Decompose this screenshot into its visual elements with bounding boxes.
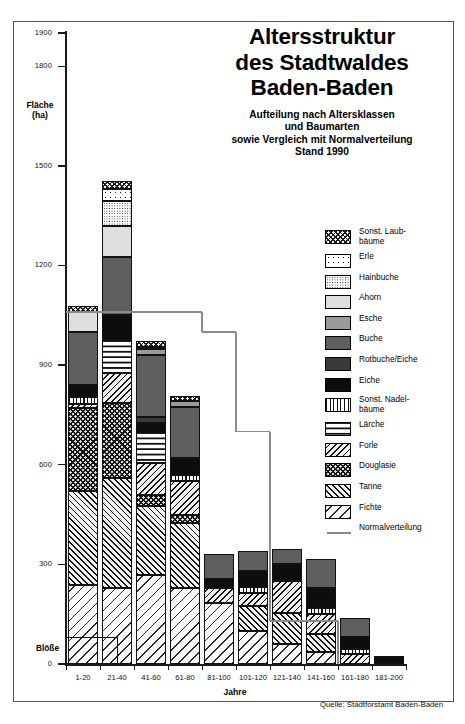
bar-segment-121-140-forle[interactable] <box>272 581 303 613</box>
x-tick-2 <box>134 664 135 670</box>
y-tick-1900 <box>58 32 66 33</box>
bar-segment-141-160-eiche[interactable] <box>306 588 337 608</box>
legend-item-eiche[interactable]: Eiche <box>325 376 457 397</box>
bar-segment-121-140-tanne[interactable] <box>272 613 303 645</box>
legend-item-normalverteilung[interactable]: Normalverteilung <box>325 523 457 544</box>
bar-segment-161-180-buche[interactable] <box>340 618 371 638</box>
bar-21-40[interactable] <box>102 181 133 664</box>
bar-segment-61-80-eiche[interactable] <box>170 458 201 475</box>
bar-segment-21-40-eiche[interactable] <box>102 315 133 340</box>
bar-segment-81-100-eiche[interactable] <box>204 579 235 587</box>
bar-segment-141-160-tanne[interactable] <box>306 634 337 652</box>
y-tick-label-1800: 1800 <box>12 61 52 70</box>
bar-181-200[interactable] <box>374 656 405 664</box>
legend-item-douglasie[interactable]: Douglasie <box>325 461 457 482</box>
bar-segment-1-20-ahorn[interactable] <box>68 312 99 332</box>
bar-1-20[interactable] <box>68 306 99 664</box>
bar-segment-21-40-buche[interactable] <box>102 257 133 315</box>
bar-segment-81-100-forle[interactable] <box>204 588 235 603</box>
bar-segment-61-80-sonstlaub[interactable] <box>170 396 201 401</box>
bar-segment-61-80-tanne[interactable] <box>170 523 201 588</box>
bar-segment-101-120-fichte[interactable] <box>238 631 269 664</box>
bar-segment-21-40-douglasie[interactable] <box>102 403 133 478</box>
bar-segment-41-60-eiche[interactable] <box>136 423 167 431</box>
legend-item-sonstlaub[interactable]: Sonst. Laub-bäume <box>325 228 457 252</box>
legend-item-hainbuche[interactable]: Hainbuche <box>325 273 457 294</box>
bar-segment-1-20-forle[interactable] <box>68 404 99 408</box>
bar-segment-21-40-forle[interactable] <box>102 373 133 403</box>
bar-segment-101-120-tanne[interactable] <box>238 606 269 631</box>
legend-item-buche[interactable]: Buche <box>325 334 457 355</box>
bar-segment-161-180-eiche[interactable] <box>340 637 371 649</box>
bar-segment-41-60-rotbuche[interactable] <box>136 417 167 424</box>
nv-v-4 <box>235 332 237 432</box>
bar-segment-121-140-buche[interactable] <box>272 549 303 564</box>
bar-segment-41-60-forle[interactable] <box>136 463 167 495</box>
bar-segment-1-20-sonstnadel[interactable] <box>68 397 99 404</box>
bar-81-100[interactable] <box>204 554 235 664</box>
legend-item-sonstnadel[interactable]: Sonst. Nadel-bäume <box>325 396 457 420</box>
y-tick-1500 <box>58 165 66 166</box>
legend-item-laerche[interactable]: Lärche <box>325 420 457 441</box>
bar-141-160[interactable] <box>306 559 337 664</box>
legend-item-esche[interactable]: Esche <box>325 314 457 335</box>
bar-segment-21-40-erle[interactable] <box>102 189 133 201</box>
legend-swatch-eiche <box>325 378 351 392</box>
bar-segment-101-120-sonstnadel[interactable] <box>238 587 269 593</box>
bar-segment-41-60-douglasie[interactable] <box>136 495 167 507</box>
bar-segment-81-100-fichte[interactable] <box>204 603 235 664</box>
bar-segment-121-140-eiche[interactable] <box>272 564 303 581</box>
bar-segment-141-160-fichte[interactable] <box>306 652 337 664</box>
bar-segment-161-180-forle[interactable] <box>340 654 371 664</box>
bar-segment-1-20-buche[interactable] <box>68 332 99 385</box>
bar-segment-21-40-tanne[interactable] <box>102 478 133 588</box>
bar-segment-181-200-eiche[interactable] <box>374 656 405 664</box>
legend-swatch-fichte <box>325 505 351 519</box>
bar-segment-21-40-laerche[interactable] <box>102 340 133 373</box>
legend-item-forle[interactable]: Forle <box>325 441 457 462</box>
y-tick-0 <box>58 663 66 664</box>
bar-segment-61-80-forle[interactable] <box>170 481 201 514</box>
bar-101-120[interactable] <box>238 551 269 664</box>
bar-segment-41-60-tanne[interactable] <box>136 506 167 575</box>
bar-segment-41-60-laerche[interactable] <box>136 432 167 464</box>
bar-segment-1-20-tanne[interactable] <box>68 491 99 586</box>
bar-segment-141-160-sonstnadel[interactable] <box>306 608 337 615</box>
bar-segment-41-60-esche[interactable] <box>136 349 167 355</box>
bar-segment-21-40-hainbuche[interactable] <box>102 201 133 226</box>
bar-segment-21-40-ahorn[interactable] <box>102 226 133 258</box>
bar-segment-1-20-douglasie[interactable] <box>68 408 99 491</box>
bar-121-140[interactable] <box>272 549 303 664</box>
nv-v-5 <box>269 432 271 621</box>
bar-segment-101-120-buche[interactable] <box>238 551 269 571</box>
legend-item-ahorn[interactable]: Ahorn <box>325 293 457 314</box>
bar-segment-141-160-buche[interactable] <box>306 559 337 587</box>
bar-segment-61-80-buche[interactable] <box>170 407 201 458</box>
legend-item-fichte[interactable]: Fichte <box>325 503 457 524</box>
bar-segment-41-60-sonstlaub[interactable] <box>136 341 167 347</box>
bar-segment-101-120-forle[interactable] <box>238 593 269 606</box>
bar-segment-61-80-sonstnadel[interactable] <box>170 475 201 482</box>
legend-item-rotbuche[interactable]: Rotbuche/Eiche <box>325 355 457 376</box>
bar-segment-101-120-eiche[interactable] <box>238 571 269 587</box>
y-tick-1800 <box>58 66 66 67</box>
bar-segment-21-40-sonstlaub[interactable] <box>102 181 133 189</box>
legend-item-tanne[interactable]: Tanne <box>325 482 457 503</box>
bar-segment-61-80-esche[interactable] <box>170 401 201 407</box>
legend-swatch-normalverteilung <box>327 532 351 534</box>
bar-segment-161-180-sonstnadel[interactable] <box>340 649 371 654</box>
legend-item-erle[interactable]: Erle <box>325 252 457 273</box>
bar-161-180[interactable] <box>340 618 371 664</box>
bar-61-80[interactable] <box>170 396 201 664</box>
bar-segment-61-80-douglasie[interactable] <box>170 515 201 523</box>
bar-segment-41-60-ahorn[interactable] <box>136 347 167 350</box>
bar-41-60[interactable] <box>136 341 167 664</box>
bar-segment-1-20-eiche[interactable] <box>68 385 99 397</box>
bar-segment-61-80-fichte[interactable] <box>170 588 201 664</box>
bar-segment-121-140-fichte[interactable] <box>272 644 303 664</box>
bar-segment-41-60-fichte[interactable] <box>136 575 167 664</box>
bar-segment-41-60-buche[interactable] <box>136 355 167 416</box>
bar-segment-141-160-forle[interactable] <box>306 614 337 634</box>
nv-v-3 <box>201 312 203 332</box>
bar-segment-81-100-buche[interactable] <box>204 554 235 579</box>
